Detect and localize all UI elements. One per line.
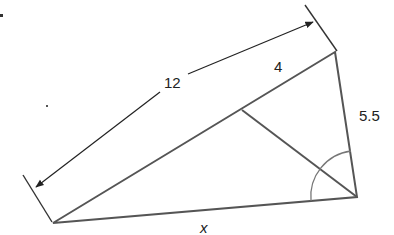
- dimension-line-upper: [188, 22, 313, 74]
- dimension-line-lower: [36, 92, 160, 187]
- geometry-diagram: 12 4 5.5 x: [0, 0, 394, 235]
- dimension-tick-top: [305, 5, 337, 51]
- stray-mark: [0, 14, 3, 17]
- stray-mark: [46, 105, 48, 107]
- label-5-5: 5.5: [359, 107, 380, 124]
- label-x: x: [199, 219, 208, 235]
- label-12: 12: [164, 74, 181, 91]
- label-4: 4: [274, 58, 282, 75]
- dimension-tick-bottom-left: [23, 175, 52, 222]
